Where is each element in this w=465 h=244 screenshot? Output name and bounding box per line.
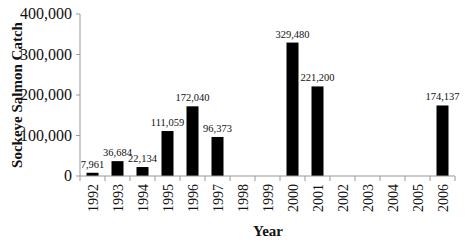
data-label-1992: 7,961 — [81, 159, 105, 170]
data-label-2001: 221,200 — [300, 72, 334, 83]
data-label-1995: 111,059 — [151, 117, 184, 128]
x-tick-label: 1999 — [261, 184, 276, 212]
bar-1993 — [112, 161, 124, 176]
x-axis-ticks: 1992199319941995199619971998199920002001… — [86, 184, 451, 212]
x-axis — [80, 176, 455, 181]
x-tick-label: 1996 — [186, 184, 201, 212]
x-tick-label: 1994 — [136, 184, 151, 212]
bar-chart: Sockeye Salmon Catch 0100,000200,000300,… — [0, 0, 465, 244]
x-tick-label: 1995 — [161, 184, 176, 212]
y-tick-label: 0 — [64, 167, 72, 184]
x-tick-label: 2002 — [336, 184, 351, 212]
x-axis-label: Year — [253, 223, 283, 239]
x-tick-label: 2001 — [311, 184, 326, 212]
y-tick-label: 200,000 — [20, 86, 72, 103]
y-tick-label: 100,000 — [20, 127, 72, 144]
x-tick-label: 2004 — [386, 184, 401, 212]
data-label-1994: 22,134 — [128, 153, 158, 164]
x-tick-label: 2003 — [361, 184, 376, 212]
x-tick-label: 1997 — [211, 184, 226, 212]
x-tick-label: 1993 — [111, 184, 126, 212]
data-label-2006: 174,137 — [425, 91, 459, 102]
data-labels: 7,96136,68422,134111,059172,04096,373329… — [81, 29, 460, 170]
bar-1994 — [137, 167, 149, 176]
bar-2000 — [287, 43, 299, 176]
y-tick-label: 400,000 — [20, 5, 72, 22]
y-axis-ticks: 0100,000200,000300,000400,000 — [20, 5, 80, 184]
x-tick-label: 2000 — [286, 184, 301, 212]
x-tick-label: 1992 — [86, 184, 101, 212]
bar-1996 — [187, 106, 199, 176]
bar-2001 — [312, 86, 324, 176]
data-label-2000: 329,480 — [275, 29, 309, 40]
y-tick-label: 300,000 — [20, 46, 72, 63]
data-label-1996: 172,040 — [175, 92, 209, 103]
x-tick-label: 1998 — [236, 184, 251, 212]
bar-1995 — [162, 131, 174, 176]
data-label-1997: 96,373 — [203, 123, 232, 134]
bar-1997 — [212, 137, 224, 176]
x-tick-label: 2006 — [436, 184, 451, 212]
x-tick-label: 2005 — [411, 184, 426, 212]
bar-2006 — [437, 105, 449, 176]
